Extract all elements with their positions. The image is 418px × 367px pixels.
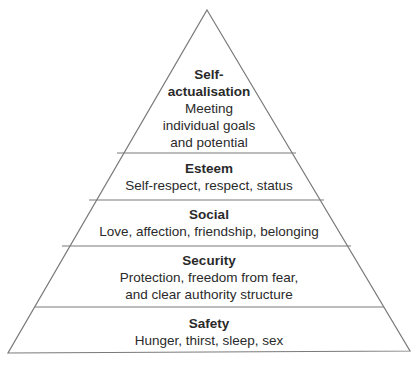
level-title: actualisation bbox=[0, 83, 418, 100]
level-description: and clear authority structure bbox=[0, 286, 418, 303]
level-description: and potential bbox=[0, 134, 418, 151]
level-self-actualisation: Self- actualisation Meeting individual g… bbox=[0, 66, 418, 151]
level-description: Meeting bbox=[0, 100, 418, 117]
level-description: Love, affection, friendship, belonging bbox=[0, 223, 418, 240]
level-title: Esteem bbox=[0, 160, 418, 177]
level-esteem: Esteem Self-respect, respect, status bbox=[0, 160, 418, 194]
level-title: Social bbox=[0, 206, 418, 223]
level-description: Hunger, thirst, sleep, sex bbox=[0, 332, 418, 349]
level-description: individual goals bbox=[0, 117, 418, 134]
level-security: Security Protection, freedom from fear, … bbox=[0, 252, 418, 303]
level-safety: Safety Hunger, thirst, sleep, sex bbox=[0, 315, 418, 349]
level-title: Self- bbox=[0, 66, 418, 83]
level-description: Self-respect, respect, status bbox=[0, 177, 418, 194]
level-title: Security bbox=[0, 252, 418, 269]
level-description: Protection, freedom from fear, bbox=[0, 269, 418, 286]
level-title: Safety bbox=[0, 315, 418, 332]
level-social: Social Love, affection, friendship, belo… bbox=[0, 206, 418, 240]
